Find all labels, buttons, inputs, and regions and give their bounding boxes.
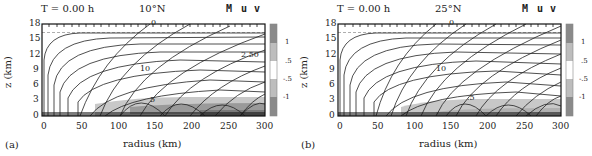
xtick: 250 [220,122,237,131]
latitude-label-a: 10°N [139,4,165,14]
cbtick: -.5 [579,76,588,83]
field-u-b: u [537,4,543,14]
contour-label-5-b: .5 [467,94,475,102]
xtick: 150 [146,122,163,131]
ytick: 0 [329,111,335,120]
field-m-b: M [522,4,528,14]
ytick: 6 [33,80,39,89]
ylabel-b: z (km) [299,56,309,88]
ytick: 9 [329,65,335,74]
ytick: 15 [325,34,336,43]
field-v-b: v [550,4,556,14]
cbtick: 1 [581,39,585,46]
ytick: 12 [325,50,336,59]
xtick: 300 [552,122,569,131]
cbtick: -.5 [283,76,292,83]
ytick: 12 [29,50,40,59]
panel-label-b: (b) [301,140,315,150]
ytick: 3 [329,95,335,104]
plot-area-b [338,24,561,116]
time-label-b: T = 0.00 h [337,4,390,14]
contour-label-250-a: 2.50 [241,51,259,59]
ytick: 3 [33,95,39,104]
panel-b: T = 0.00 h 25°N M u v 0 10 .5 18 15 12 9… [296,0,592,156]
contour-label-5-a: 5 [150,96,155,104]
contour-label-10-b: 10 [436,65,446,73]
colorbar-a [270,24,277,116]
plot-a-svg [0,0,296,156]
contour-label-0-b: 0 [449,19,454,27]
field-m-a: M [226,4,232,14]
xtick: 100 [406,122,423,131]
cbtick: .5 [581,58,588,65]
colorbar-b [566,24,573,116]
xlabel-b: radius (km) [419,139,477,149]
ytick: 9 [33,65,39,74]
contour-label-0-a: 0 [151,19,156,27]
xtick: 50 [76,122,87,131]
cbtick: 1 [285,39,289,46]
cbtick: -1 [283,94,290,101]
xtick: 300 [256,122,273,131]
cbtick: .5 [285,58,292,65]
xtick: 50 [372,122,383,131]
xlabel-a: radius (km) [123,139,181,149]
ytick: 15 [29,34,40,43]
panel-a: T = 0.00 h 10°N M u v 0 10 5 2.50 18 15 … [0,0,296,156]
time-label-a: T = 0.00 h [41,4,94,14]
field-u-a: u [241,4,247,14]
xtick: 200 [479,122,496,131]
ytick: 18 [29,19,40,28]
xtick: 200 [183,122,200,131]
xtick: 0 [337,122,343,131]
field-v-a: v [254,4,260,14]
xtick: 100 [110,122,127,131]
panel-label-a: (a) [5,140,19,150]
ytick: 0 [33,111,39,120]
latitude-label-b: 25°N [435,4,461,14]
ytick: 18 [325,19,336,28]
cbtick: -1 [579,94,586,101]
xtick: 150 [442,122,459,131]
plot-b-svg [296,0,592,156]
xtick: 0 [41,122,47,131]
contour-label-10-a: 10 [140,65,150,73]
ylabel-a: z (km) [3,56,13,88]
xtick: 250 [516,122,533,131]
ytick: 6 [329,80,335,89]
